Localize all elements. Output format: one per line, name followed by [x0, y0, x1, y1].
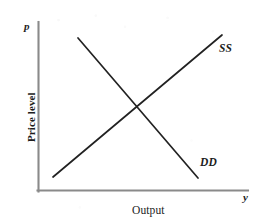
supply-curve-ss	[53, 35, 222, 177]
supply-curve-label: SS	[219, 43, 232, 55]
x-axis-title: Output	[132, 205, 165, 217]
figure-canvas: p y SS DD Price level Output	[0, 0, 266, 223]
y-axis-symbol: p	[24, 21, 30, 32]
y-axis-title: Price level	[26, 92, 37, 142]
demand-curve-dd	[78, 38, 198, 178]
demand-curve-label: DD	[200, 157, 217, 169]
x-axis-symbol: y	[243, 192, 248, 203]
supply-demand-diagram	[0, 0, 266, 223]
